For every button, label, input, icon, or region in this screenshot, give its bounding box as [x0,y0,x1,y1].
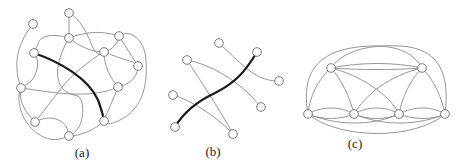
graph-edge [104,52,118,87]
graph-edge [187,60,261,107]
graph-node [275,77,284,86]
graph-edge [308,68,331,114]
graph-edge [219,43,279,81]
highlighted-edge [34,53,104,121]
graph-edge [308,108,354,114]
panel-a-caption: (a) [75,145,89,160]
graph-node [229,130,238,139]
graph-node [171,123,180,132]
panel-a-highlight-path [34,53,104,121]
graph-node [215,39,224,48]
graph-edge [331,68,422,70]
panel-c: (c) [304,46,450,151]
panel-c-edges [306,46,446,134]
graph-node [418,64,427,73]
graph-node [114,83,123,92]
graph-edge [354,68,422,114]
graph-edge [35,52,104,122]
graph-edge [399,108,445,114]
graph-node [257,103,266,112]
panel-b-nodes [169,39,284,139]
graph-edge [422,68,445,114]
graph-edge [331,64,422,69]
graph-edge [399,114,445,119]
graph-node [65,132,74,141]
graph-edge [104,87,118,121]
graph-node [327,64,336,73]
graph-edge [119,36,138,66]
graph-edge [69,32,119,38]
graph-node [31,118,40,127]
graph-node [441,110,450,119]
graph-edge [104,33,146,123]
graph-edge [331,68,399,114]
graph-edge [69,121,104,136]
graph-edge [354,108,399,114]
panel-b-caption: (b) [205,144,220,159]
graph-node [65,34,74,43]
graph-node [253,48,262,57]
panel-a: (a) [17,9,147,160]
graph-node [134,62,143,71]
graph-edge [399,68,422,114]
graph-edge [104,52,138,66]
graph-edge [19,88,69,140]
graph-node [65,9,74,18]
graph-node [350,110,359,119]
graph-node [304,110,313,119]
graph-edge [35,118,69,136]
graph-edge [21,53,38,88]
graph-node [115,32,124,41]
graph-edge [306,46,422,114]
graph-node [29,20,38,29]
graph-edge [69,38,104,52]
graph-edge [20,88,35,122]
panel-c-nodes [304,64,450,119]
graph-node [169,91,178,100]
graph-node [100,48,109,57]
graph-node [17,84,26,93]
graph-node [183,56,192,65]
panel-c-caption: (c) [348,136,362,151]
graph-edge [308,114,445,134]
graph-node [100,117,109,126]
graph-figure: (a) (b) (c) [0,0,464,167]
graph-edge [187,60,233,134]
graph-edge [173,95,233,134]
graph-node [30,49,39,58]
graph-node [395,110,404,119]
graph-edge [34,36,69,53]
graph-edge [331,46,446,114]
panel-b: (b) [169,39,284,159]
